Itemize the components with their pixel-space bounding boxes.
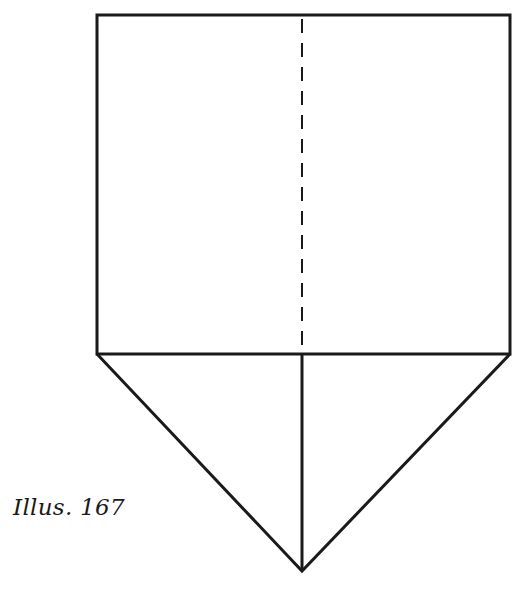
illustration-caption: Illus. 167 bbox=[13, 494, 125, 520]
paper-square bbox=[97, 15, 510, 354]
